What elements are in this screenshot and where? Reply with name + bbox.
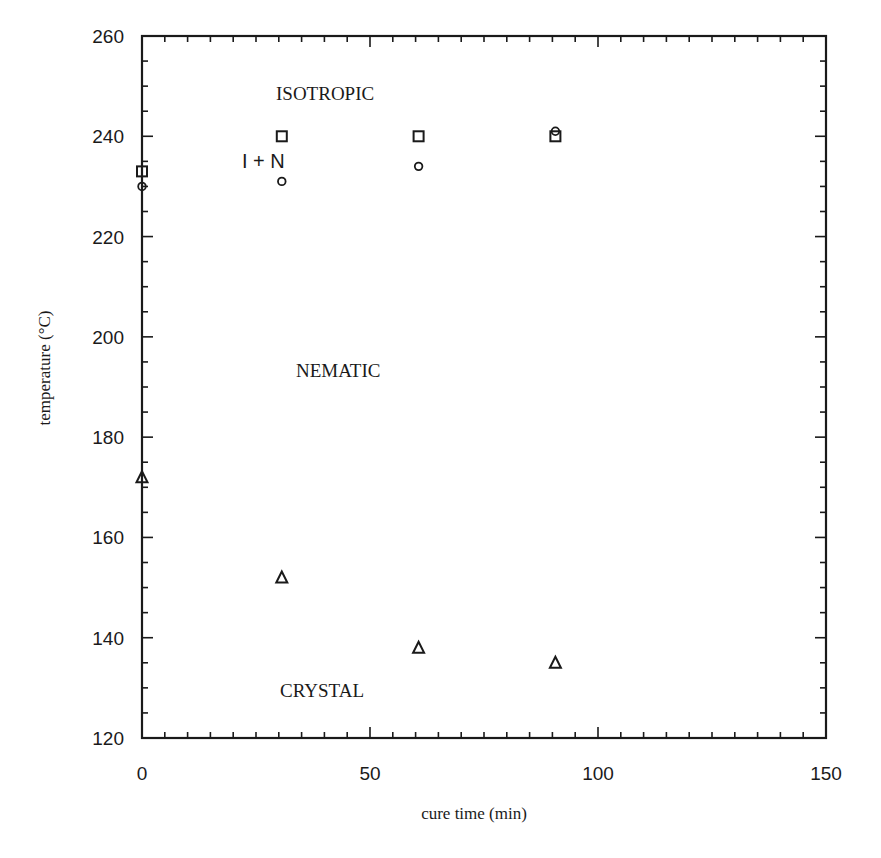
y-tick-label: 220	[92, 227, 124, 248]
phase-diagram-chart: 050100150120140160180200220240260 ISOTRO…	[0, 0, 881, 858]
triangle-marker	[550, 657, 561, 668]
y-tick-label: 260	[92, 26, 124, 47]
y-tick-label: 240	[92, 126, 124, 147]
triangle-marker	[413, 642, 424, 653]
x-tick-label: 150	[810, 763, 842, 784]
y-tick-label: 140	[92, 628, 124, 649]
y-tick-label: 120	[92, 728, 124, 749]
plot-frame	[142, 36, 826, 738]
square-marker	[414, 131, 424, 141]
region-label-crystal: CRYSTAL	[280, 680, 364, 701]
x-tick-label: 0	[137, 763, 148, 784]
x-tick-label: 100	[582, 763, 614, 784]
y-axis-title: temperature (°C)	[35, 311, 54, 426]
data-points	[137, 127, 561, 667]
y-tick-label: 160	[92, 527, 124, 548]
axis-ticks	[142, 36, 826, 738]
y-tick-label: 200	[92, 327, 124, 348]
y-tick-label: 180	[92, 427, 124, 448]
x-tick-label: 50	[359, 763, 380, 784]
circle-marker	[278, 178, 286, 186]
square-marker	[277, 131, 287, 141]
circle-marker	[415, 163, 423, 171]
x-axis-title: cure time (min)	[421, 804, 527, 823]
region-label-i-plus-n: I + N	[242, 150, 285, 172]
triangle-marker	[276, 572, 287, 583]
axis-tick-labels: 050100150120140160180200220240260	[92, 26, 842, 784]
region-label-isotropic: ISOTROPIC	[276, 83, 374, 104]
region-label-nematic: NEMATIC	[296, 360, 380, 381]
